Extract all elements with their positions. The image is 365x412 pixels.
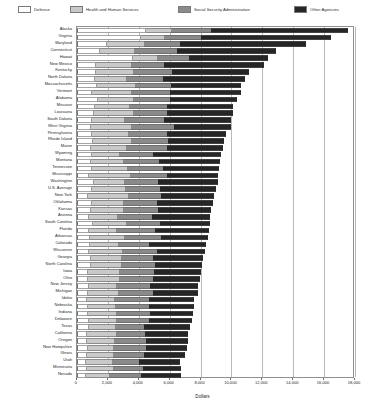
bar-segment <box>77 359 86 365</box>
bar-segment <box>89 173 130 179</box>
legend-item-other-agencies[interactable]: Other Agencies <box>294 6 339 13</box>
chart-page: DefenseHealth and Human ServicesSocial S… <box>0 0 365 412</box>
bar-row[interactable] <box>77 152 221 158</box>
bar-segment <box>131 138 168 144</box>
bar-row[interactable] <box>77 200 213 206</box>
bar-row[interactable] <box>77 345 187 351</box>
bar-segment <box>126 76 163 82</box>
bar-segment <box>167 173 219 179</box>
bar-segment <box>89 318 116 324</box>
y-axis-tick-label: Idaho <box>62 296 72 300</box>
legend-item-social-security-administration[interactable]: Social Security Administration <box>178 6 250 13</box>
legend-label: Health and Human Services <box>86 7 139 12</box>
bar-segment <box>133 97 170 103</box>
bar-segment <box>180 41 306 47</box>
bar-row[interactable] <box>77 131 226 137</box>
y-axis-tick-label: Maine <box>61 144 72 148</box>
bar-row[interactable] <box>77 69 249 75</box>
bar-segment <box>155 228 209 234</box>
bar-row[interactable] <box>77 83 241 89</box>
y-axis-tick-label: Nebraska <box>54 303 72 307</box>
bar-row[interactable] <box>77 311 193 317</box>
bar-row[interactable] <box>77 290 198 296</box>
y-axis-tick-label: Illinois <box>61 351 72 355</box>
bar-row[interactable] <box>77 41 306 47</box>
bar-row[interactable] <box>77 104 233 110</box>
bar-row[interactable] <box>77 352 185 358</box>
y-axis-tick-label: Louisiana <box>54 110 72 114</box>
bar-row[interactable] <box>77 324 190 330</box>
bar-row[interactable] <box>77 283 198 289</box>
bar-row[interactable] <box>77 249 205 255</box>
bar-row[interactable] <box>77 255 203 261</box>
bar-row[interactable] <box>77 304 194 310</box>
bar-segment <box>93 221 125 227</box>
bar-row[interactable] <box>77 179 218 185</box>
bar-row[interactable] <box>77 28 348 34</box>
bar-row[interactable] <box>77 117 231 123</box>
legend-item-health-and-human-services[interactable]: Health and Human Services <box>70 6 139 13</box>
y-axis-tick-label: Tennessee <box>52 165 72 169</box>
bar-segment <box>87 338 114 344</box>
bar-segment <box>116 331 145 337</box>
bar-row[interactable] <box>77 331 188 337</box>
bar-row[interactable] <box>77 138 224 144</box>
bar-row[interactable] <box>77 242 206 248</box>
bar-row[interactable] <box>77 159 220 165</box>
bar-row[interactable] <box>77 269 201 275</box>
bar-row[interactable] <box>77 173 218 179</box>
bar-row[interactable] <box>77 338 188 344</box>
bar-row[interactable] <box>77 359 180 365</box>
bar-row[interactable] <box>77 193 214 199</box>
bar-segment <box>153 255 202 261</box>
bar-row[interactable] <box>77 35 331 41</box>
bar-row[interactable] <box>77 62 264 68</box>
bar-segment <box>133 69 172 75</box>
bar-segment <box>92 200 123 206</box>
bar-segment <box>128 131 167 137</box>
bar-segment <box>77 221 93 227</box>
bar-row[interactable] <box>77 262 202 268</box>
bar-row[interactable] <box>77 145 223 151</box>
bar-segment <box>77 62 96 68</box>
y-axis-tick-label: Pennsylvania <box>48 131 72 135</box>
bar-segment <box>133 55 157 61</box>
bar-row[interactable] <box>77 228 209 234</box>
bar-row[interactable] <box>77 124 231 130</box>
bar-segment <box>91 124 131 130</box>
bar-segment <box>77 311 88 317</box>
bar-segment <box>94 110 133 116</box>
bar-row[interactable] <box>77 166 219 172</box>
bar-segment <box>177 48 276 54</box>
y-axis-tick-label: Colorado <box>55 241 72 245</box>
bar-row[interactable] <box>77 90 241 96</box>
bar-row[interactable] <box>77 318 192 324</box>
bar-row[interactable] <box>77 235 208 241</box>
bar-row[interactable] <box>77 97 237 103</box>
bar-segment <box>167 110 233 116</box>
bar-row[interactable] <box>77 366 181 372</box>
bar-row[interactable] <box>77 76 245 82</box>
bar-segment <box>118 290 154 296</box>
bar-segment <box>77 186 92 192</box>
bar-row[interactable] <box>77 55 268 61</box>
bar-row[interactable] <box>77 110 233 116</box>
legend-swatch-icon <box>18 6 31 13</box>
bar-segment <box>77 338 87 344</box>
bar-segment <box>95 104 129 110</box>
bar-row[interactable] <box>77 214 210 220</box>
bar-row[interactable] <box>77 221 210 227</box>
bar-row[interactable] <box>77 276 200 282</box>
bar-row[interactable] <box>77 207 211 213</box>
bar-segment <box>126 145 166 151</box>
bar-row[interactable] <box>77 186 216 192</box>
bar-segment <box>139 359 181 365</box>
bar-segment <box>77 152 92 158</box>
bar-segment <box>168 138 224 144</box>
bar-row[interactable] <box>77 48 276 54</box>
y-axis-tick-label: Michigan <box>56 289 72 293</box>
legend-item-defense[interactable]: Defense <box>18 6 50 13</box>
bar-row[interactable] <box>77 297 194 303</box>
bar-segment <box>87 331 116 337</box>
bar-segment <box>121 262 155 268</box>
